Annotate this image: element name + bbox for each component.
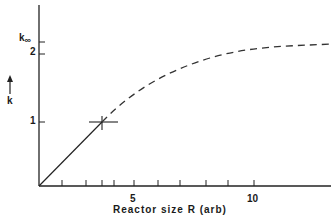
x-ticks <box>62 180 254 186</box>
y-axis-label: k <box>7 95 13 106</box>
y-tick-label-2: 2 <box>30 46 36 57</box>
chart-plot <box>0 0 333 218</box>
y-tick-label-1: 1 <box>30 115 36 126</box>
linear-segment <box>39 122 102 186</box>
x-tick-label-10: 10 <box>247 193 258 204</box>
x-tick-label-5: 5 <box>130 193 136 204</box>
arrow-up-icon <box>7 75 13 82</box>
saturation-curve <box>102 44 333 122</box>
y-label-kinf: k∞ <box>19 32 31 43</box>
x-axis-label: Reactor size R (arb) <box>113 204 227 215</box>
